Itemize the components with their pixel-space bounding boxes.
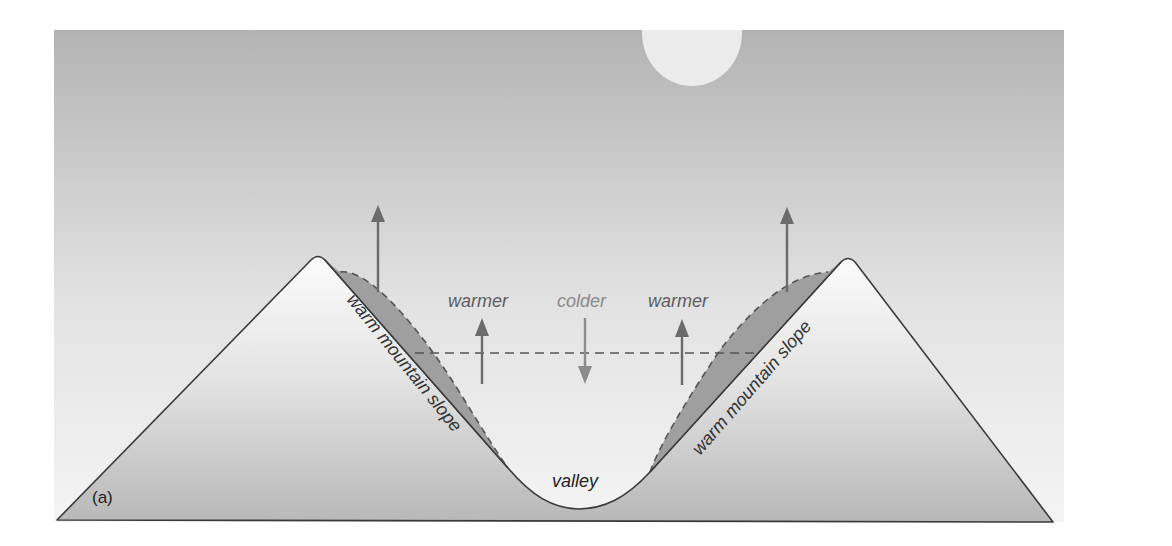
panel-label: (a) (92, 488, 113, 507)
label-warmer-left: warmer (448, 291, 509, 311)
label-warmer-right: warmer (648, 291, 709, 311)
label-colder: colder (557, 291, 607, 311)
mountain-valley-diagram: warmer colder warmer valley warm mountai… (0, 0, 1172, 546)
label-valley: valley (552, 471, 599, 491)
